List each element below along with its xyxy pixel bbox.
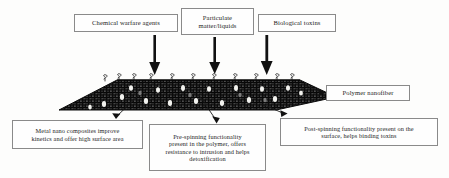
threat-incidence-arrow-group xyxy=(149,35,272,75)
post-spinning-line2: surface, helps binding toxins xyxy=(302,132,416,139)
biological-toxins-text: Biological toxins xyxy=(272,19,323,27)
pre-spinning-line1: Pre-spinning functionality xyxy=(163,133,251,140)
label-box-particulate-matter-liquids: Particulate matter/liquids xyxy=(181,8,254,35)
metal-nano-composites-line1: Metal nano composites improve xyxy=(29,127,125,134)
chemical-warfare-agents-text: Chemical warfare agents xyxy=(90,19,162,27)
label-box-chemical-warfare-agents: Chemical warfare agents xyxy=(74,14,178,32)
threat-incidence-arrow-3 xyxy=(261,35,273,75)
particulate-matter-liquids-line1: Particulate xyxy=(196,14,238,22)
particulate-matter-liquids-text: Particulate matter/liquids xyxy=(194,14,240,30)
threat-incidence-arrow-1 xyxy=(149,35,160,75)
label-box-post-spinning-functionality: Post-spinning functionality present on t… xyxy=(280,118,438,146)
polymer-nanofiber-body xyxy=(59,80,336,110)
pre-spinning-line3: resistance to intrusion and helps xyxy=(163,148,251,155)
pre-spinning-line2: present in the polymer, offers xyxy=(163,140,251,147)
label-box-pre-spinning-functionality: Pre-spinning functionality present in th… xyxy=(149,124,266,171)
pre-spinning-functionality-text: Pre-spinning functionality present in th… xyxy=(161,133,253,163)
post-spinning-line1: Post-spinning functionality present on t… xyxy=(302,125,416,132)
figure-canvas: Chemical warfare agents Particulate matt… xyxy=(0,0,449,178)
pre-spinning-line4: detoxification xyxy=(163,155,251,162)
metal-nano-composites-line2: kinetics and offer high surface area xyxy=(29,135,125,142)
metal-nano-composites-text: Metal nano composites improve kinetics a… xyxy=(27,127,127,142)
label-box-metal-nano-composites: Metal nano composites improve kinetics a… xyxy=(12,120,143,149)
label-box-biological-toxins: Biological toxins xyxy=(258,14,336,32)
polymer-nanofiber-text: Polymer nanofiber xyxy=(341,89,396,97)
threat-incidence-arrow-2 xyxy=(209,37,220,74)
particulate-matter-liquids-line2: matter/liquids xyxy=(196,22,238,30)
post-spinning-functionality-text: Post-spinning functionality present on t… xyxy=(300,125,418,140)
label-box-polymer-nanofiber: Polymer nanofiber xyxy=(326,85,410,101)
